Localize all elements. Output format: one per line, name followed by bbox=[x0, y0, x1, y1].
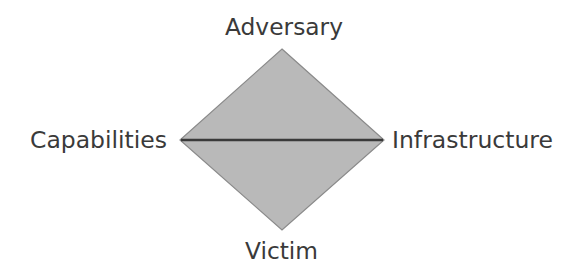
label-victim: Victim bbox=[245, 238, 318, 264]
label-capabilities: Capabilities bbox=[30, 127, 167, 153]
label-infrastructure: Infrastructure bbox=[392, 127, 553, 153]
diamond-model-diagram: Adversary Capabilities Infrastructure Vi… bbox=[0, 0, 582, 276]
label-adversary: Adversary bbox=[225, 14, 343, 40]
